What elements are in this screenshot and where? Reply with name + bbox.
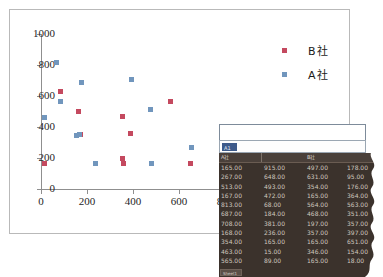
x-tick [87, 189, 88, 194]
data-point-a [129, 77, 134, 82]
table-cell[interactable]: 346.00 [305, 247, 345, 256]
data-point-a [149, 161, 154, 166]
data-point-a [79, 80, 84, 85]
table-cell[interactable]: 165.00 [305, 256, 345, 265]
table-cell[interactable]: 197.00 [305, 219, 345, 228]
data-point-b [188, 161, 193, 166]
data-point-a [42, 115, 47, 120]
data-point-b [58, 89, 63, 94]
table-cell[interactable]: 165.00 [262, 237, 305, 246]
table-cell[interactable]: 168.00 [219, 228, 262, 237]
sheet-tab[interactable]: Sheet1 [220, 269, 242, 276]
table-cell[interactable]: 68.00 [262, 200, 305, 209]
table-cell[interactable]: 472.00 [262, 191, 305, 200]
table-row[interactable]: 463.0015.00346.00154.00 [219, 247, 383, 256]
table-cell[interactable]: 915.00 [262, 163, 305, 172]
y-tick-label: 1000 [33, 28, 55, 39]
table-cell[interactable]: 267.00 [219, 172, 262, 181]
table-cell[interactable]: 165.00 [305, 237, 345, 246]
data-point-a [93, 161, 98, 166]
table-row[interactable]: 813.0068.00564.00563.00 [219, 200, 383, 209]
table-cell[interactable]: 351.00 [345, 209, 383, 218]
table-cell[interactable]: 176.00 [345, 182, 383, 191]
table-cell[interactable]: 18.00 [345, 256, 383, 265]
table-row[interactable]: 165.00915.00497.00178.00 [219, 163, 383, 172]
table-cell[interactable]: 236.00 [262, 228, 305, 237]
table-cell[interactable]: 648.00 [262, 172, 305, 181]
table-cell[interactable]: 631.00 [305, 172, 345, 181]
data-point-a [77, 132, 82, 137]
column-header-blank2[interactable] [345, 153, 383, 162]
column-header-b[interactable]: B社 [305, 153, 345, 162]
grid-body: 165.00915.00497.00178.00267.00648.00631.… [219, 163, 383, 265]
table-row[interactable]: 168.00236.00357.00397.00 [219, 228, 383, 237]
x-tick [179, 189, 180, 194]
screenshot-root: 1000 800 600 400 200 0 0 200 400 600 800… [0, 0, 383, 277]
data-point-b [121, 161, 126, 166]
table-cell[interactable]: 167.00 [219, 191, 262, 200]
table-cell[interactable]: 397.00 [345, 228, 383, 237]
x-tick-label: 400 [119, 196, 147, 207]
table-cell[interactable]: 564.00 [305, 200, 345, 209]
table-cell[interactable]: 468.00 [305, 209, 345, 218]
column-header-a[interactable]: A社 [219, 153, 262, 162]
y-tick-label: 600 [39, 90, 56, 101]
table-cell[interactable]: 154.00 [345, 247, 383, 256]
chart-legend: B社 A社 [278, 38, 348, 86]
x-tick-label: 600 [165, 196, 193, 207]
formula-bar[interactable]: A1 [219, 140, 366, 153]
table-cell[interactable]: 497.00 [305, 163, 345, 172]
spreadsheet-grid[interactable]: A社 B社 165.00915.00497.00178.00267.00648.… [219, 153, 383, 277]
y-tick-label: 400 [39, 121, 56, 132]
table-cell[interactable]: 89.00 [262, 256, 305, 265]
table-cell[interactable]: 178.00 [345, 163, 383, 172]
table-cell[interactable]: 687.00 [219, 209, 262, 218]
table-cell[interactable]: 463.00 [219, 247, 262, 256]
table-cell[interactable]: 357.00 [345, 219, 383, 228]
legend-item-a: A社 [278, 62, 348, 86]
table-row[interactable]: 565.0089.00165.0018.00 [219, 256, 383, 265]
table-cell[interactable]: 513.00 [219, 182, 262, 191]
y-tick-label: 800 [39, 59, 56, 70]
table-cell[interactable]: 381.00 [262, 219, 305, 228]
data-point-a [54, 60, 59, 65]
data-point-b [168, 99, 173, 104]
spreadsheet-titlebar [219, 124, 366, 140]
sheet-tab-label: Sheet1 [223, 270, 237, 277]
data-point-b [120, 114, 125, 119]
table-row[interactable]: 167.00472.00165.00364.00 [219, 191, 383, 200]
table-row[interactable]: 687.00184.00468.00351.00 [219, 209, 383, 218]
table-row[interactable]: 513.00493.00354.00176.00 [219, 182, 383, 191]
x-tick [133, 189, 134, 194]
data-point-b [128, 131, 133, 136]
table-cell[interactable]: 184.00 [262, 209, 305, 218]
table-cell[interactable]: 708.00 [219, 219, 262, 228]
grid-header-row: A社 B社 [219, 153, 383, 163]
data-point-b [42, 161, 47, 166]
table-cell[interactable]: 165.00 [219, 163, 262, 172]
table-cell[interactable]: 95.00 [345, 172, 383, 181]
table-cell[interactable]: 565.00 [219, 256, 262, 265]
data-point-a [58, 99, 63, 104]
table-cell[interactable]: 563.00 [345, 200, 383, 209]
name-box[interactable]: A1 [222, 143, 237, 151]
legend-swatch-a-icon [282, 72, 287, 77]
table-cell[interactable]: 354.00 [305, 182, 345, 191]
table-cell[interactable]: 165.00 [305, 191, 345, 200]
data-point-a [148, 107, 153, 112]
table-cell[interactable]: 357.00 [305, 228, 345, 237]
x-tick-label: 200 [73, 196, 101, 207]
table-cell[interactable]: 354.00 [219, 237, 262, 246]
data-point-b [76, 109, 81, 114]
table-cell[interactable]: 651.00 [345, 237, 383, 246]
legend-swatch-b-icon [282, 48, 287, 53]
table-cell[interactable]: 15.00 [262, 247, 305, 256]
spreadsheet-overlay: A1 A社 B社 165.00915.00497.00178.00267.006… [219, 124, 383, 277]
table-row[interactable]: 267.00648.00631.0095.00 [219, 172, 383, 181]
table-row[interactable]: 708.00381.00197.00357.00 [219, 219, 383, 228]
table-cell[interactable]: 493.00 [262, 182, 305, 191]
column-header-blank1[interactable] [262, 153, 305, 162]
table-row[interactable]: 354.00165.00165.00651.00 [219, 237, 383, 246]
table-cell[interactable]: 813.00 [219, 200, 262, 209]
table-cell[interactable]: 364.00 [345, 191, 383, 200]
